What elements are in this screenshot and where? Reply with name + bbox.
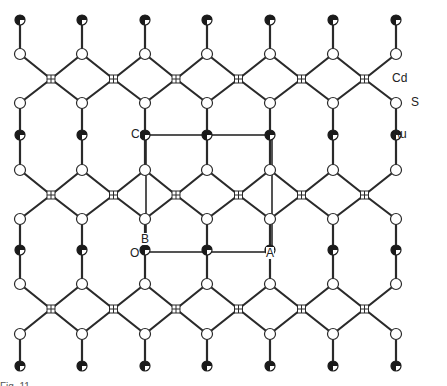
au-atom [202,15,212,25]
au-atom [202,130,212,140]
figure-caption: Fig. 11. ... [0,381,447,386]
unit-cell-label-c: C [131,128,140,140]
s-atom [15,49,26,60]
s-atom [328,98,339,109]
cd-atom [172,75,180,83]
au-atom [391,15,401,25]
cd-atom [110,75,118,83]
s-atom [15,165,26,176]
cd-atom [235,75,243,83]
cd-atom [361,305,369,313]
cd-atom [298,191,306,199]
s-atom [77,165,88,176]
s-atom [202,214,213,225]
unit-cell-rect [146,135,272,252]
s-atom [328,329,339,340]
atoms-layer [15,15,402,371]
s-atom [265,165,276,176]
s-atom [391,98,402,109]
au-atom [391,245,401,255]
s-atom [77,214,88,225]
s-atom [202,165,213,176]
au-atom [77,245,87,255]
s-atom [140,49,151,60]
au-atom [140,15,150,25]
s-atom [265,49,276,60]
au-atom [328,361,338,371]
s-atom [391,214,402,225]
au-atom [140,361,150,371]
au-atom [140,130,150,140]
cd-atom [47,305,55,313]
au-atom [15,361,25,371]
au-atom [77,130,87,140]
s-atom [265,329,276,340]
cd-atom [361,191,369,199]
bond-lines [20,20,396,366]
legend-label-cd: Cd [392,72,407,84]
s-atom [15,214,26,225]
cd-atom [298,305,306,313]
s-atom [77,98,88,109]
s-atom [328,49,339,60]
s-atom [77,49,88,60]
unit-cell-label-b: B [141,233,149,245]
s-atom [15,98,26,109]
au-atom [328,245,338,255]
s-atom [328,279,339,290]
au-atom [391,361,401,371]
s-atom [391,49,402,60]
au-atom [202,361,212,371]
legend-label-s: S [411,96,419,108]
s-atom [202,98,213,109]
cd-atom [298,75,306,83]
au-atom [140,245,150,255]
s-atom [265,214,276,225]
s-atom [77,329,88,340]
au-atom [202,245,212,255]
cd-atom [172,191,180,199]
s-atom [140,329,151,340]
s-atom [140,214,151,225]
au-atom [265,130,275,140]
s-atom [15,329,26,340]
s-atom [391,329,402,340]
cd-atom [235,191,243,199]
au-atom [77,361,87,371]
unit-cell-label-a: A [266,247,274,259]
s-atom [140,165,151,176]
s-atom [265,279,276,290]
s-atom [391,279,402,290]
au-atom [328,15,338,25]
s-atom [391,165,402,176]
au-atom [15,15,25,25]
s-atom [140,279,151,290]
s-atom [202,49,213,60]
s-atom [202,279,213,290]
s-atom [77,279,88,290]
s-atom [328,214,339,225]
au-atom [15,130,25,140]
cd-atom [361,75,369,83]
s-atom [15,279,26,290]
s-atom [265,98,276,109]
au-atom [265,361,275,371]
unit-cell-label-o: O [130,247,139,259]
s-atom [202,329,213,340]
cd-atom [47,75,55,83]
cd-atom [110,305,118,313]
au-atom [265,15,275,25]
crystal-structure-diagram [0,0,447,386]
s-atom [328,165,339,176]
au-atom [328,130,338,140]
cd-atom [172,305,180,313]
cd-atom [110,191,118,199]
legend-label-au: Au [392,128,407,140]
s-atom [140,98,151,109]
cd-atom [235,305,243,313]
cd-atom [47,191,55,199]
au-atom [15,245,25,255]
unit-cell-outline [146,135,272,252]
au-atom [77,15,87,25]
